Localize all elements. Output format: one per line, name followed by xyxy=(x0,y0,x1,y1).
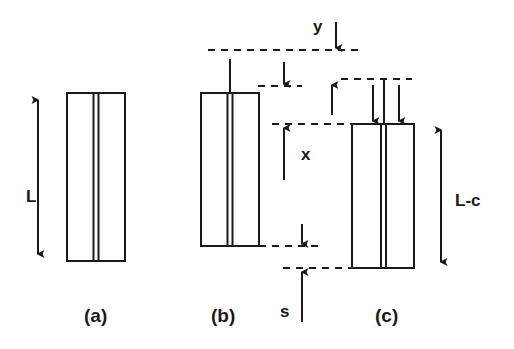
strip-a-group xyxy=(67,93,125,261)
strip-b-outline xyxy=(201,93,259,246)
dimension-label-s: s xyxy=(280,303,289,320)
panel-caption-b: (b) xyxy=(211,306,235,325)
dimension-label-L-minus-c: L-c xyxy=(455,192,481,209)
panel-caption-c: (c) xyxy=(375,306,398,325)
dimension-label-x: x xyxy=(301,146,310,163)
strip-c-outline xyxy=(352,124,414,268)
strip-c-group xyxy=(352,79,414,268)
dimension-label-L: L xyxy=(26,188,36,205)
strip-b-group xyxy=(201,59,259,246)
strip-a-outline xyxy=(67,93,125,261)
figure-container: L y x s L-c (a) (b) (c) xyxy=(0,0,514,349)
diagram-canvas xyxy=(0,0,514,349)
panel-caption-a: (a) xyxy=(84,306,107,325)
dimension-label-y: y xyxy=(313,18,322,35)
